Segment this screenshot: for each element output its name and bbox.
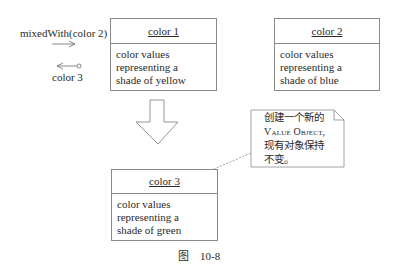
object-color-1: color 1 color values representing a shad… <box>110 18 217 91</box>
object-color-2: color 2 color values representing a shad… <box>274 18 380 91</box>
transform-down-arrow-icon <box>136 100 178 144</box>
note-line: Value Object, <box>264 125 325 139</box>
object-name: color 3 <box>149 175 180 187</box>
note-text: 创建一个新的 Value Object, 现有对象保持 不变。 <box>264 111 325 167</box>
object-name: color 2 <box>312 25 343 37</box>
return-arrow-left-icon <box>57 63 81 69</box>
object-value-line: color values <box>117 198 213 211</box>
object-value-line: representing a <box>280 61 375 74</box>
object-value-line: shade of yellow <box>116 74 212 87</box>
object-value-line: shade of green <box>117 224 213 237</box>
note-line: 创建一个新的 <box>264 111 325 125</box>
object-color-3: color 3 color values representing a shad… <box>111 169 218 241</box>
message-arrow-right-icon <box>52 41 75 47</box>
message-label: mixedWith(color 2) <box>20 27 107 39</box>
object-value-line: color values <box>280 48 375 61</box>
object-name: color 1 <box>148 25 179 37</box>
object-value-line: representing a <box>116 61 212 74</box>
object-value-line: color values <box>116 48 212 61</box>
note-line: 不变。 <box>264 153 325 167</box>
object-value-line: representing a <box>117 211 213 224</box>
object-value-line: shade of blue <box>280 74 375 87</box>
figure-caption: 图 10-8 <box>178 247 220 263</box>
note-line: 现有对象保持 <box>264 139 325 153</box>
return-label: color 3 <box>52 71 83 83</box>
